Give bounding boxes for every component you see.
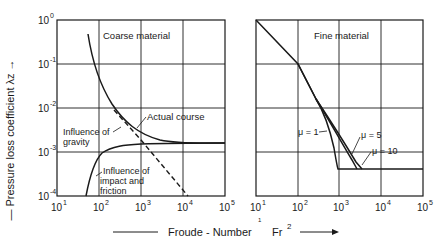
right-plot-title: Fine material [314,30,369,41]
chart-figure: — Pressure loss coefficient λz → Coarse … [0,0,443,248]
svg-text:Froude - Number: Froude - Number [168,226,252,238]
svg-text:2: 2 [105,199,109,206]
left-plot-title: Coarse material [103,30,170,41]
svg-text:10: 10 [417,202,429,213]
label-actual-course: Actual course [147,111,205,122]
svg-text:5: 5 [231,199,235,206]
leader-mu-10 [362,152,371,165]
svg-text:10: 10 [38,147,50,158]
svg-text:10: 10 [333,202,345,213]
svg-text:1: 1 [258,217,262,223]
svg-text:10: 10 [93,202,105,213]
svg-text:3: 3 [147,199,151,206]
svg-text:10: 10 [250,202,262,213]
label-impact-1: Influence of [103,166,150,176]
label-gravity-2: gravity [63,137,90,147]
svg-text:10: 10 [177,202,189,213]
leader-mu-1 [319,131,327,132]
left-plot-coarse: Coarse material Actual course Influence … [38,12,235,213]
label-mu-1: μ = 1 [298,127,318,137]
svg-text:3: 3 [345,199,349,206]
svg-text:10: 10 [38,191,50,202]
svg-text:4: 4 [387,199,391,206]
svg-text:10: 10 [38,59,50,70]
svg-text:10: 10 [38,15,50,26]
left-x-tick-labels: 10 1 10 2 10 3 10 4 10 5 [51,199,235,213]
svg-text:10: 10 [292,202,304,213]
label-mu-5: μ = 5 [361,130,381,140]
svg-text:0: 0 [50,12,54,19]
label-impact-3: friction [100,186,127,196]
label-impact-2: impact and [100,176,144,186]
svg-text:10: 10 [38,103,50,114]
x-axis-label: Froude - Number 1 Fr 2 [113,217,339,238]
svg-text:2: 2 [304,199,308,206]
svg-text:1: 1 [262,199,266,206]
y-axis-label: — Pressure loss coefficient λz → [4,59,16,220]
svg-text:10: 10 [219,202,231,213]
label-mu-10: μ = 10 [372,146,397,156]
svg-text:-3: -3 [50,144,56,151]
leader-gravity [113,127,121,132]
svg-text:-2: -2 [50,100,56,107]
svg-text:Fr: Fr [272,226,283,238]
right-x-tick-labels: 10 1 10 2 10 3 10 4 10 5 [250,199,433,213]
arrow-right-icon [332,229,339,235]
svg-text:10: 10 [375,202,387,213]
svg-text:5: 5 [429,199,433,206]
curve-mu-1 [256,20,423,169]
svg-text:10: 10 [135,202,147,213]
leader-actual-course [137,117,146,128]
svg-text:4: 4 [189,199,193,206]
svg-text:2: 2 [287,222,292,231]
svg-text:-1: -1 [50,56,56,63]
leader-mu-5 [352,137,360,154]
right-plot-fine: Fine material μ = 1 μ = 5 μ = 10 10 1 10… [250,20,433,213]
left-y-tick-labels: 10 0 10 -1 10 -2 10 -3 10 -4 [38,12,56,202]
label-gravity-1: Influence of [63,127,110,137]
svg-text:-4: -4 [50,188,56,195]
svg-text:— Pressure loss coefficient λz: — Pressure loss coefficient λz → [4,59,16,220]
svg-text:10: 10 [51,202,63,213]
svg-text:1: 1 [63,199,67,206]
